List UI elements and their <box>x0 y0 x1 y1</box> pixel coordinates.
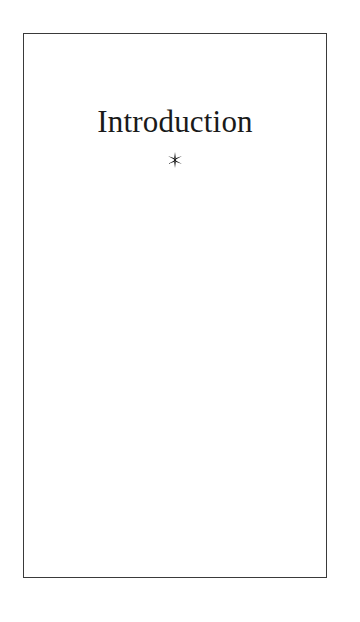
chapter-opening-block: Introduction <box>24 106 326 169</box>
page-frame-border: Introduction <box>23 33 327 578</box>
page-body-blank-area <box>24 194 326 577</box>
page-title: Introduction <box>24 106 326 137</box>
scanned-page-image: Introduction <box>0 0 360 622</box>
six-pointed-asterisk-ornament-icon <box>166 151 184 169</box>
page-content-area: Introduction <box>24 34 326 577</box>
